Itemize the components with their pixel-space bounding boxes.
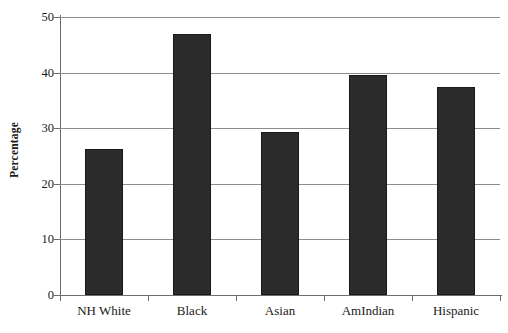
x-tick-mark [324, 295, 325, 301]
y-tick-mark [54, 17, 60, 18]
bar [85, 149, 123, 295]
gridline [60, 73, 500, 74]
x-axis-line [58, 295, 502, 296]
y-tick-label-group: 01020304050 [26, 17, 54, 295]
gridline [60, 128, 500, 129]
y-tick-label: 20 [28, 176, 54, 191]
plot-area [60, 17, 500, 295]
y-axis-title-label: Percentage [8, 122, 20, 178]
chart-title-cropped [0, 0, 508, 3]
bar [261, 132, 299, 295]
y-tick-label: 0 [28, 288, 54, 303]
y-tick-label: 50 [28, 10, 54, 25]
y-tick-label: 40 [28, 65, 54, 80]
bar [437, 87, 475, 295]
y-tick-label: 30 [28, 121, 54, 136]
x-axis-category-label: NH White [60, 303, 148, 319]
x-tick-mark [236, 295, 237, 301]
bar [173, 34, 211, 295]
y-tick-mark [54, 184, 60, 185]
x-axis-category-label: AmIndian [324, 303, 412, 319]
y-tick-label: 10 [28, 232, 54, 247]
x-axis-category-label: Asian [236, 303, 324, 319]
x-axis-category-label: Black [148, 303, 236, 319]
y-tick-mark [54, 239, 60, 240]
x-tick-mark [412, 295, 413, 301]
gridline [60, 17, 500, 18]
y-tick-mark [54, 128, 60, 129]
x-tick-mark [500, 295, 501, 301]
x-tick-mark [148, 295, 149, 301]
x-axis-category-label: Hispanic [412, 303, 500, 319]
y-tick-mark [54, 73, 60, 74]
y-axis-title: Percentage [2, 0, 26, 300]
x-tick-mark [60, 295, 61, 301]
bar-chart: Percentage 01020304050 NH WhiteBlackAsia… [0, 0, 508, 333]
bar [349, 75, 387, 295]
